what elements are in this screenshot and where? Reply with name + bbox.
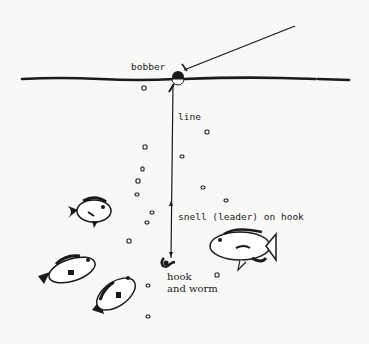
fish-icon (210, 229, 276, 270)
fishing-line-to-rod (184, 26, 295, 70)
fish-icon (68, 198, 111, 228)
fish-icon (38, 252, 98, 288)
vertical-line (171, 84, 173, 258)
label-bobber: bobber (131, 61, 165, 72)
label-snell: snell (leader) on hook (178, 211, 304, 222)
water-surface (22, 78, 349, 80)
label-and-worm: and worm (167, 283, 218, 294)
fish-icon (91, 272, 141, 317)
label-hook: hook (167, 271, 192, 282)
hook-and-worm-icon (162, 258, 175, 267)
fishing-rig-diagram: bobber line snell (leader) on hook hook … (0, 0, 369, 344)
label-line: line (178, 111, 201, 122)
